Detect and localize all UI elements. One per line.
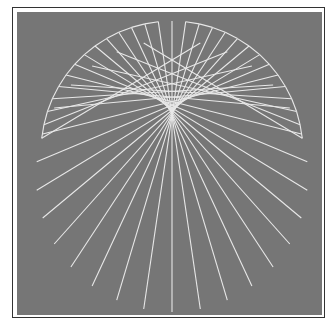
- rim-segment: [292, 99, 297, 112]
- string-line: [43, 46, 249, 218]
- string-line: [119, 32, 273, 267]
- rim-segment: [119, 27, 132, 32]
- rim-segment: [225, 32, 237, 38]
- rim-segment: [66, 64, 75, 75]
- rim-segment: [95, 39, 107, 46]
- rim-segment: [186, 22, 200, 24]
- string-line: [71, 32, 225, 267]
- rim-segment: [249, 46, 260, 55]
- rim-segment: [269, 64, 278, 75]
- rim-segment: [238, 39, 250, 46]
- rim-segment: [278, 75, 285, 87]
- rim-segment: [300, 125, 302, 139]
- string-line: [145, 24, 228, 300]
- rim-segment: [47, 99, 52, 112]
- string-line: [75, 64, 308, 162]
- rim-segment: [285, 87, 291, 99]
- rim-segment: [132, 24, 145, 28]
- string-art-figure: [0, 0, 334, 332]
- rim-segment: [199, 24, 212, 28]
- rim-segment: [297, 112, 301, 125]
- rim-segment: [260, 55, 270, 65]
- string-line: [117, 52, 300, 125]
- rim-segment: [52, 87, 58, 99]
- rim-segment: [213, 27, 226, 32]
- string-line: [95, 46, 301, 218]
- rim-segment: [59, 75, 66, 87]
- rim-segment: [42, 125, 44, 139]
- rim-segment: [44, 112, 48, 125]
- string-line: [37, 64, 270, 162]
- string-line: [44, 52, 227, 125]
- string-line: [117, 24, 200, 300]
- rim-segment: [107, 32, 119, 38]
- rim-segment: [84, 46, 95, 55]
- rim-segment: [145, 22, 159, 24]
- rim-segment: [75, 55, 85, 65]
